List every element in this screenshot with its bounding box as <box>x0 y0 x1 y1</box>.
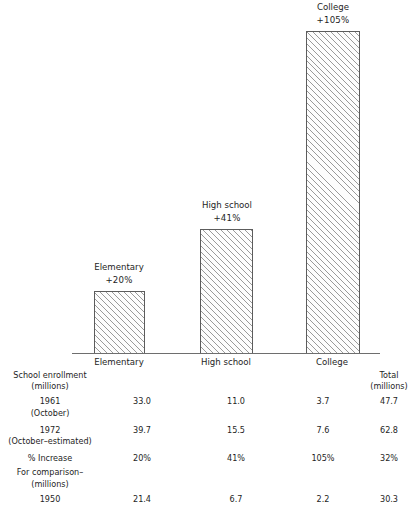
bar-annotation-high-school-name: High school <box>177 199 277 212</box>
bar-annotation-college: College +105% <box>283 1 383 27</box>
table-blank-cell-6 <box>288 467 358 490</box>
bar-annotation-elementary-value: +20% <box>69 274 169 287</box>
x-axis-tick-college: College <box>282 357 382 367</box>
cell-pct-increase-high-school: 41% <box>184 450 288 467</box>
cell-1961-total: 47.7 <box>358 393 420 421</box>
cell-1950-high-school: 6.7 <box>184 491 288 508</box>
cell-1972-total: 62.8 <box>358 422 420 450</box>
section-comparison-line2: (millions) <box>0 479 100 490</box>
cell-1972-high-school: 15.5 <box>184 422 288 450</box>
cell-pct-increase-total: 32% <box>358 450 420 467</box>
cell-1950-total: 30.3 <box>358 491 420 508</box>
table-blank-cell-1 <box>100 370 184 393</box>
table-blank-cell-7 <box>358 467 420 490</box>
cell-1950-college: 2.2 <box>288 491 358 508</box>
cell-1961-college: 3.7 <box>288 393 358 421</box>
bar-chart-plot: Elementary +20% High school +41% College… <box>0 0 420 356</box>
cell-1972-elementary: 39.7 <box>100 422 184 450</box>
table-header-total: Total (millions) <box>358 370 420 393</box>
section-comparison-line1: For comparison– <box>0 467 100 478</box>
bar-college <box>306 31 360 354</box>
section-enrollment-line2: (millions) <box>0 381 100 392</box>
row-1961-line2: (October) <box>0 408 100 419</box>
bar-high-school <box>200 229 253 354</box>
table-header-total-line1: Total <box>358 370 420 381</box>
bar-annotation-college-value: +105% <box>283 14 383 27</box>
cell-pct-increase-college: 105% <box>288 450 358 467</box>
table-blank-cell-5 <box>184 467 288 490</box>
table-header-total-line2: (millions) <box>358 381 420 392</box>
bar-annotation-high-school: High school +41% <box>177 199 277 225</box>
x-axis-baseline <box>72 353 380 354</box>
table-blank-cell-4 <box>100 467 184 490</box>
table-row-label-1950: 1950 <box>0 491 100 508</box>
row-1972-line2: (October–estimated) <box>0 436 100 447</box>
bar-annotation-high-school-value: +41% <box>177 212 277 225</box>
bar-annotation-college-name: College <box>283 1 383 14</box>
row-1961-line1: 1961 <box>0 396 100 407</box>
table-row-label-1972: 1972 (October–estimated) <box>0 422 100 450</box>
school-enrollment-figure: Elementary +20% High school +41% College… <box>0 0 420 521</box>
table-row: % Increase 20% 41% 105% 32% <box>0 450 420 467</box>
enrollment-table-wrapper: School enrollment (millions) Total (mill… <box>0 370 420 508</box>
table-row-label-1961: 1961 (October) <box>0 393 100 421</box>
table-section-label-comparison: For comparison– (millions) <box>0 467 100 490</box>
bar-elementary <box>94 291 145 354</box>
table-blank-cell-3 <box>288 370 358 393</box>
bar-annotation-elementary: Elementary +20% <box>69 261 169 287</box>
cell-1950-elementary: 21.4 <box>100 491 184 508</box>
cell-pct-increase-elementary: 20% <box>100 450 184 467</box>
x-axis-tick-elementary: Elementary <box>69 357 169 367</box>
cell-1972-college: 7.6 <box>288 422 358 450</box>
enrollment-table: School enrollment (millions) Total (mill… <box>0 370 420 508</box>
table-section-label-enrollment: School enrollment (millions) <box>0 370 100 393</box>
table-row-section-header: School enrollment (millions) Total (mill… <box>0 370 420 393</box>
bar-annotation-elementary-name: Elementary <box>69 261 169 274</box>
section-enrollment-line1: School enrollment <box>0 370 100 381</box>
table-row-label-pct-increase: % Increase <box>0 450 100 467</box>
table-row: 1961 (October) 33.0 11.0 3.7 47.7 <box>0 393 420 421</box>
table-row-section-comparison: For comparison– (millions) <box>0 467 420 490</box>
table-row: 1950 21.4 6.7 2.2 30.3 <box>0 491 420 508</box>
x-axis-tick-high-school: High school <box>176 357 276 367</box>
cell-1961-high-school: 11.0 <box>184 393 288 421</box>
cell-1961-elementary: 33.0 <box>100 393 184 421</box>
table-blank-cell-2 <box>184 370 288 393</box>
table-row: 1972 (October–estimated) 39.7 15.5 7.6 6… <box>0 422 420 450</box>
row-1972-line1: 1972 <box>0 425 100 436</box>
